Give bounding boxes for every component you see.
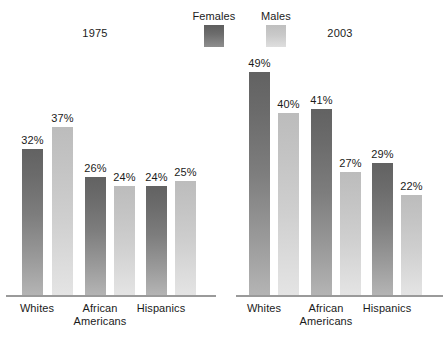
bar-value-label: 29% [371, 148, 393, 160]
category-label-2003-hispanics: Hispanics [343, 302, 431, 315]
bar-1975-african-americans-males: 24% [114, 186, 135, 295]
grouped-bar-chart: Females Males 1975 2003 32% 37% 26% 24% … [0, 0, 447, 340]
bar-2003-hispanics-males: 22% [401, 195, 422, 295]
bar-2003-whites-males: 40% [278, 113, 299, 295]
bar-value-label: 25% [174, 166, 196, 178]
bar-value-label: 22% [400, 180, 422, 192]
bar-value-label: 26% [84, 162, 106, 174]
x-axis-line-2003 [236, 295, 443, 297]
bar-2003-african-americans-males: 27% [340, 172, 361, 295]
category-label-1975-hispanics: Hispanics [117, 302, 205, 315]
bar-value-label: 27% [339, 157, 361, 169]
bar-1975-whites-females: 32% [22, 149, 43, 295]
bar-value-label: 49% [248, 57, 270, 69]
bar-value-label: 41% [310, 94, 332, 106]
bar-value-label: 24% [113, 171, 135, 183]
bar-1975-african-americans-females: 26% [85, 177, 106, 295]
x-axis-line-1975 [6, 295, 216, 297]
bar-1975-hispanics-females: 24% [146, 186, 167, 295]
bar-value-label: 40% [277, 98, 299, 110]
bar-2003-african-americans-females: 41% [311, 109, 332, 296]
panel-1975: 32% 37% 26% 24% 24% 25% Whites African A… [0, 0, 222, 340]
bar-value-label: 24% [145, 171, 167, 183]
bar-value-label: 37% [51, 112, 73, 124]
bar-value-label: 32% [21, 134, 43, 146]
panel-2003: 49% 40% 41% 27% 29% 22% Whites African A… [232, 0, 447, 340]
bar-1975-hispanics-males: 25% [175, 181, 196, 295]
bar-1975-whites-males: 37% [52, 127, 73, 295]
bar-2003-whites-females: 49% [249, 72, 270, 295]
bar-2003-hispanics-females: 29% [372, 163, 393, 295]
